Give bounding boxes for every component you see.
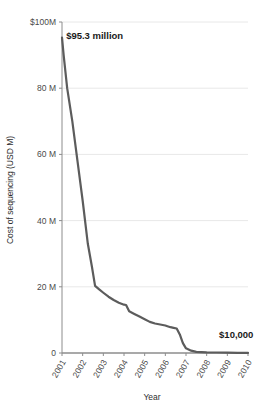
y-axis-title: Cost of sequencing (USD M) bbox=[5, 136, 15, 244]
y-tick-label-2: 60 M bbox=[37, 149, 56, 159]
chart-background bbox=[0, 0, 260, 410]
annotation-start-value: $95.3 million bbox=[66, 30, 123, 41]
chart-container: $100M80 M60 M40 M20 M0 20012002200320042… bbox=[0, 0, 260, 410]
y-tick-label-4: 20 M bbox=[37, 282, 56, 292]
y-tick-label-1: 80 M bbox=[37, 83, 56, 93]
x-axis-title: Year bbox=[143, 392, 160, 402]
y-tick-label-5: 0 bbox=[51, 348, 56, 358]
y-tick-label-0: $100M bbox=[30, 17, 56, 27]
sequencing-cost-line-chart: $100M80 M60 M40 M20 M0 20012002200320042… bbox=[0, 0, 260, 410]
annotation-end-value: $10,000 bbox=[219, 329, 253, 340]
y-tick-label-3: 40 M bbox=[37, 216, 56, 226]
